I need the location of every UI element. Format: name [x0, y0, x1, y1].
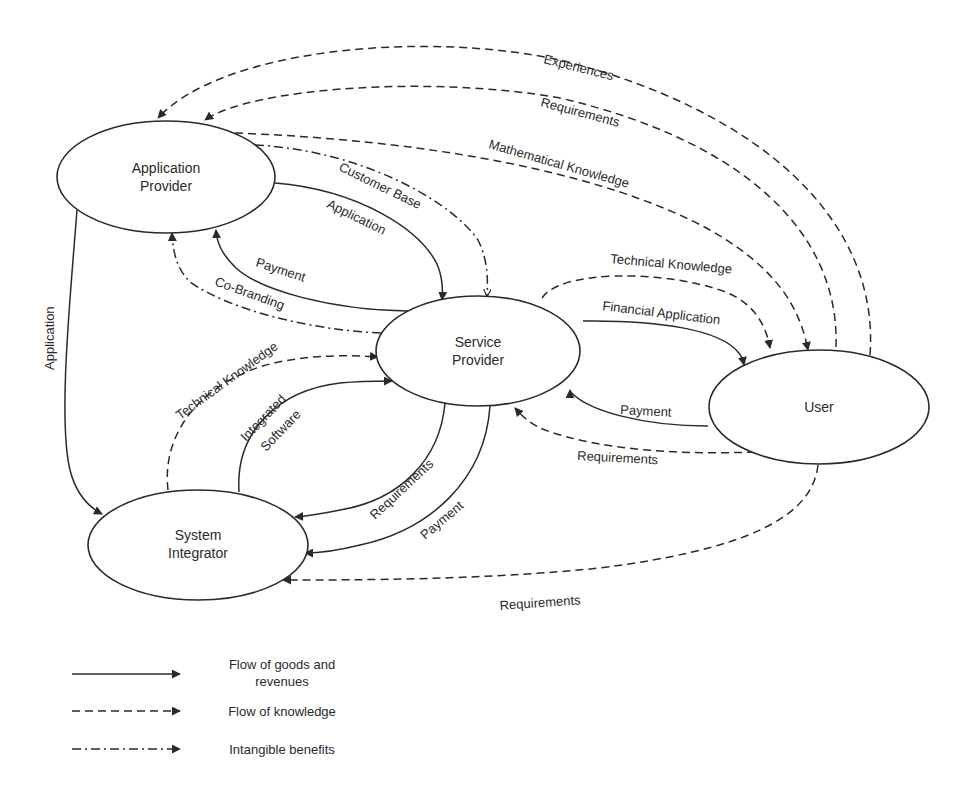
legend-knowledge-label: Flow of knowledge [228, 704, 336, 719]
edge-integrated-software [239, 381, 392, 492]
legend-goods-label-1: Flow of goods and [229, 657, 335, 672]
edge-label-requirements-user-si: Requirements [499, 592, 581, 613]
node-user-label: User [804, 399, 834, 415]
edge-label-technical-knowledge-sp-user: Technical Knowledge [610, 251, 733, 277]
edge-requirements-user-si [283, 465, 818, 580]
edge-label-requirements-user-sp: Requirements [577, 448, 659, 467]
node-user: User [709, 350, 929, 464]
legend-item-intangible: Intangible benefits [72, 742, 335, 757]
legend-item-knowledge: Flow of knowledge [72, 704, 336, 719]
edge-financial-application [583, 321, 744, 365]
edge-label-requirements-user-ap: Requirements [539, 94, 622, 130]
node-system-integrator-label-1: System [175, 527, 222, 543]
edge-label-financial-application: Financial Application [602, 298, 721, 327]
node-service-provider-label-2: Provider [452, 352, 504, 368]
edge-technical-knowledge-si-sp [167, 356, 378, 490]
value-network-diagram: Experiences Requirements Mathematical Kn… [0, 0, 971, 792]
legend-goods-label-2: revenues [255, 674, 309, 689]
node-system-integrator-label-2: Integrator [168, 545, 228, 561]
legend-item-goods: Flow of goods and revenues [72, 657, 335, 689]
edge-label-co-branding: Co-Branding [213, 274, 287, 313]
node-service-provider-label-1: Service [455, 334, 502, 350]
node-system-integrator: System Integrator [88, 490, 308, 600]
edge-payment-sp-si [305, 406, 490, 553]
edge-label-payment-sp-ap: Payment [254, 255, 308, 285]
edge-label-application-ap-si: Application [42, 306, 57, 370]
edge-label-payment-user-sp: Payment [620, 402, 672, 420]
node-application-provider-label-1: Application [132, 160, 201, 176]
edge-label-customer-base: Customer Base [337, 159, 424, 212]
node-application-provider: Application Provider [57, 121, 275, 233]
edge-label-requirements-sp-si: Requirements [367, 456, 437, 523]
legend: Flow of goods and revenues Flow of knowl… [72, 657, 336, 757]
node-application-provider-label-2: Provider [140, 178, 192, 194]
legend-intangible-label: Intangible benefits [229, 742, 335, 757]
edge-label-experiences: Experiences [542, 51, 616, 83]
edge-application-ap-si [65, 210, 102, 514]
edge-co-branding [172, 233, 381, 333]
node-service-provider: Service Provider [376, 296, 580, 406]
